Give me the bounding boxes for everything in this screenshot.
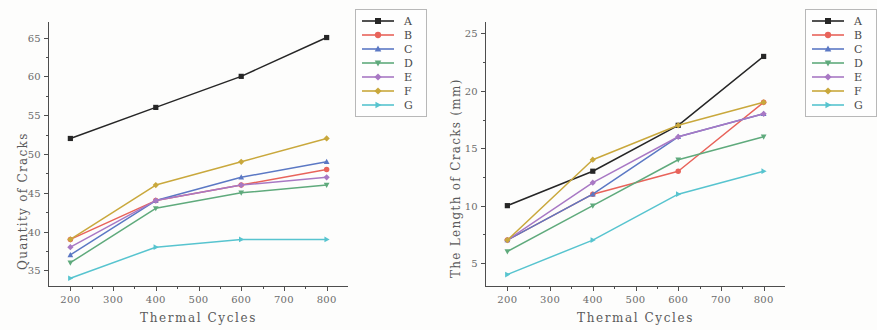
y-axis-tick-label: 45 (28, 187, 41, 198)
legend-label: C (846, 43, 863, 56)
series-line-b (70, 170, 326, 240)
series-line-e (70, 177, 326, 247)
x-axis-title-right: Thermal Cycles (486, 311, 785, 325)
x-axis-tick-label: 600 (668, 294, 688, 305)
x-axis-tick (70, 286, 71, 291)
series-line-g (70, 239, 326, 278)
legend-label: B (846, 29, 862, 42)
legend-right: ABCDEFG (805, 9, 877, 117)
y-axis-tick-label: 5 (471, 258, 478, 269)
y-axis-tick (481, 91, 486, 92)
x-axis-tick-label: 200 (497, 294, 517, 305)
x-axis-tick-label: 300 (103, 294, 123, 305)
series-line-d (507, 137, 763, 252)
y-axis-tick (481, 148, 486, 149)
legend-label: D (396, 57, 413, 70)
legend-label: E (396, 71, 412, 84)
y-axis-tick-label: 35 (28, 265, 41, 276)
series-line-a (70, 38, 326, 139)
legend-label: D (846, 57, 863, 70)
plot-area-right: Thermal Cycles 5101520252003004005006007… (485, 22, 785, 287)
y-axis-minor-tick (483, 177, 486, 178)
x-axis-tick (764, 286, 765, 291)
legend-item-a[interactable]: A (360, 14, 421, 28)
x-axis-tick-label: 600 (231, 294, 251, 305)
legend-swatch-e-icon (810, 71, 846, 83)
x-axis-tick (593, 286, 594, 291)
x-axis-minor-tick (305, 286, 306, 289)
legend-item-a[interactable]: A (810, 14, 871, 28)
x-axis-tick (113, 286, 114, 291)
y-axis-tick-label: 15 (465, 143, 478, 154)
y-axis-tick-label: 40 (28, 226, 41, 237)
x-axis-minor-tick (614, 286, 615, 289)
x-axis-minor-tick (177, 286, 178, 289)
legend-swatch-b-icon (360, 29, 396, 41)
x-axis-tick (636, 286, 637, 291)
legend-item-f[interactable]: F (360, 84, 421, 98)
series-lines-left (49, 22, 348, 286)
legend-item-b[interactable]: B (810, 28, 871, 42)
y-axis-minor-tick (46, 57, 49, 58)
legend-swatch-f-icon (360, 85, 396, 97)
x-axis-tick-label: 200 (60, 294, 80, 305)
legend-item-b[interactable]: B (360, 28, 421, 42)
legend-item-e[interactable]: E (810, 70, 871, 84)
plot-area-left: Thermal Cycles 3540455055606520030040050… (48, 22, 348, 287)
legend-swatch-c-icon (810, 43, 846, 55)
legend-item-g[interactable]: G (360, 98, 421, 112)
x-axis-tick (241, 286, 242, 291)
x-axis-tick (156, 286, 157, 291)
legend-label: G (846, 99, 863, 112)
legend-item-d[interactable]: D (810, 56, 871, 70)
x-axis-minor-tick (263, 286, 264, 289)
x-axis-tick-label: 400 (146, 294, 166, 305)
y-axis-tick-label: 20 (465, 85, 478, 96)
legend-swatch-g-icon (810, 99, 846, 111)
chart-panel-left: Quantity of Cracks Thermal Cycles 354045… (0, 0, 427, 330)
y-axis-tick-label: 25 (465, 28, 478, 39)
legend-item-d[interactable]: D (360, 56, 421, 70)
x-axis-minor-tick (92, 286, 93, 289)
x-axis-minor-tick (134, 286, 135, 289)
x-axis-tick-label: 400 (583, 294, 603, 305)
y-axis-tick (481, 263, 486, 264)
y-axis-minor-tick (483, 234, 486, 235)
y-axis-tick-label: 65 (28, 32, 41, 43)
legend-item-e[interactable]: E (360, 70, 421, 84)
y-axis-minor-tick (46, 135, 49, 136)
x-axis-minor-tick (657, 286, 658, 289)
y-axis-tick (481, 206, 486, 207)
x-axis-tick-label: 500 (189, 294, 209, 305)
y-axis-tick-label: 50 (28, 149, 41, 160)
x-axis-minor-tick (220, 286, 221, 289)
y-axis-minor-tick (483, 62, 486, 63)
legend-label: A (846, 15, 862, 28)
legend-swatch-g-icon (360, 99, 396, 111)
legend-swatch-a-icon (360, 15, 396, 27)
series-lines-right (486, 22, 785, 286)
x-axis-minor-tick (742, 286, 743, 289)
y-axis-tick (44, 38, 49, 39)
x-axis-tick (550, 286, 551, 291)
legend-left: ABCDEFG (355, 9, 427, 117)
y-axis-minor-tick (46, 96, 49, 97)
legend-item-c[interactable]: C (810, 42, 871, 56)
series-line-c (70, 162, 326, 255)
legend-swatch-e-icon (360, 71, 396, 83)
x-axis-tick (327, 286, 328, 291)
x-axis-tick (507, 286, 508, 291)
series-line-d (70, 185, 326, 263)
legend-item-f[interactable]: F (810, 84, 871, 98)
legend-label: G (396, 99, 413, 112)
legend-item-c[interactable]: C (360, 42, 421, 56)
x-axis-tick-label: 700 (274, 294, 294, 305)
x-axis-minor-tick (571, 286, 572, 289)
x-axis-tick (721, 286, 722, 291)
legend-swatch-f-icon (810, 85, 846, 97)
y-axis-tick (44, 76, 49, 77)
legend-swatch-b-icon (810, 29, 846, 41)
y-axis-tick (44, 270, 49, 271)
legend-item-g[interactable]: G (810, 98, 871, 112)
